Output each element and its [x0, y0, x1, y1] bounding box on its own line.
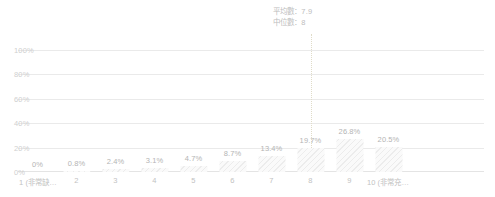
x-axis-tick-label: 8 [291, 176, 330, 185]
bar-slot[interactable]: 13.4% [252, 50, 291, 172]
statistics-annotation: 平均數：7.9 中位數：8 [273, 7, 313, 28]
bar[interactable] [297, 148, 324, 172]
bar-slot[interactable]: 26.8% [330, 50, 369, 172]
bars-layer: 0%0.8%2.4%3.1%4.7%8.7%13.4%19.7%26.8%20.… [18, 50, 484, 172]
bar-value-label: 26.8% [339, 127, 361, 136]
x-axis-tick-label: 7 [252, 176, 291, 185]
bar-value-label: 8.7% [224, 149, 242, 158]
bar-value-label: 0% [32, 160, 43, 169]
mean-label: 平均數：7.9 [273, 7, 313, 18]
x-axis: 1 (非常缺…2345678910 (非常充… [18, 176, 484, 192]
bar-value-label: 19.7% [300, 136, 322, 145]
bar-slot[interactable]: 20.5% [369, 50, 408, 172]
x-axis-tick-label: 10 (非常充… [359, 176, 417, 187]
bar-slot[interactable]: 0% [18, 50, 57, 172]
bar-slot[interactable]: 19.7% [291, 50, 330, 172]
bar-value-label: 3.1% [146, 156, 164, 165]
x-axis-tick-label: 3 [96, 176, 135, 185]
x-axis-tick-label: 6 [213, 176, 252, 185]
bar-slot[interactable]: 0.8% [57, 50, 96, 172]
bar[interactable] [336, 139, 363, 172]
bar-chart: 0%20%40%60%80%100% 平均數：7.9 中位數：8 0%0.8%2… [0, 0, 495, 197]
bar-value-label: 4.7% [185, 154, 203, 163]
bar-slot[interactable]: 2.4% [96, 50, 135, 172]
bar-slot[interactable]: 8.7% [213, 50, 252, 172]
median-label: 中位數：8 [273, 18, 313, 29]
bar[interactable] [219, 161, 246, 172]
bar-value-label: 20.5% [378, 135, 400, 144]
bar[interactable] [141, 168, 168, 172]
bar-slot[interactable]: 3.1% [135, 50, 174, 172]
bar[interactable] [180, 166, 207, 172]
bar[interactable] [375, 147, 402, 172]
bar[interactable] [102, 169, 129, 172]
bar-value-label: 13.4% [261, 144, 283, 153]
x-axis-tick-label: 5 [174, 176, 213, 185]
x-axis-tick-label: 4 [135, 176, 174, 185]
x-axis-tick-label: 2 [57, 176, 96, 185]
bar-slot[interactable]: 4.7% [174, 50, 213, 172]
bar-value-label: 2.4% [107, 157, 125, 166]
bar-value-label: 0.8% [68, 159, 86, 168]
bar[interactable] [258, 156, 285, 172]
bar[interactable] [63, 171, 90, 172]
